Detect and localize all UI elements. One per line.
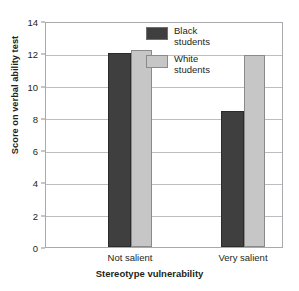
legend-label-black-students: Black students bbox=[174, 26, 210, 47]
x-tick-label-very-salient: Very salient bbox=[218, 252, 267, 263]
legend-item-black-students: Black students bbox=[146, 26, 238, 47]
legend-label-white-students: White students bbox=[174, 54, 210, 75]
y-tick-label: 6 bbox=[33, 146, 38, 157]
legend-swatch-black-icon bbox=[146, 27, 168, 40]
y-axis: 02468101214 bbox=[0, 22, 45, 248]
x-axis-title: Stereotype vulnerability bbox=[0, 268, 299, 279]
bar-very-salient-white bbox=[244, 55, 265, 247]
y-tick-label: 12 bbox=[27, 49, 38, 60]
bar-chart-figure: Score on verbal ability test 02468101214… bbox=[0, 0, 299, 291]
y-tick-label: 4 bbox=[33, 178, 38, 189]
bar-very-salient-black bbox=[221, 111, 244, 247]
y-tick-label: 14 bbox=[27, 17, 38, 28]
legend-item-white-students: White students bbox=[146, 54, 238, 75]
y-tick-label: 10 bbox=[27, 81, 38, 92]
y-tick-label: 2 bbox=[33, 210, 38, 221]
y-tick-label: 0 bbox=[33, 243, 38, 254]
x-tick-label-not-salient: Not salient bbox=[108, 252, 153, 263]
legend-swatch-white-icon bbox=[146, 55, 168, 68]
bar-not-salient-black bbox=[108, 53, 131, 247]
chart-legend: Black students White students bbox=[146, 26, 238, 82]
y-tick-label: 8 bbox=[33, 113, 38, 124]
